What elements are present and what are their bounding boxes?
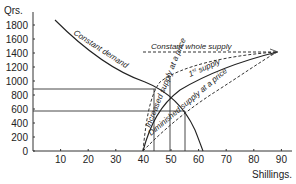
y-tick-label: 0	[22, 146, 28, 157]
y-axis-unit: Qrs.	[4, 5, 23, 16]
y-tick-label: 800	[11, 90, 28, 101]
x-tick-label: 50	[165, 154, 177, 165]
x-tick-label: 10	[55, 154, 67, 165]
x-tick-label: 20	[83, 154, 95, 165]
y-tick-label: 1600	[6, 34, 29, 45]
label-constant-whole-supply: Constant whole supply	[151, 42, 232, 51]
x-axis-unit: Shillings.	[252, 169, 292, 180]
supply-demand-chart: 0 200 400 600 800 1000 1200 1400 1600 18…	[0, 0, 296, 184]
label-constant-demand: Constant demand	[72, 28, 130, 70]
y-tick-labels: 0 200 400 600 800 1000 1200 1400 1600 18…	[6, 20, 29, 157]
x-tick-label: 80	[248, 154, 260, 165]
x-tick-label: 60	[193, 154, 205, 165]
x-tick-label: 40	[138, 154, 150, 165]
y-tick-label: 1200	[6, 62, 29, 73]
y-tick-label: 200	[11, 132, 28, 143]
x-tick-label: 30	[110, 154, 122, 165]
x-tick-label: 90	[276, 154, 288, 165]
y-tick-label: 400	[11, 118, 28, 129]
y-tick-label: 1400	[6, 48, 29, 59]
y-tick-label: 1800	[6, 20, 29, 31]
y-tick-label: 1000	[6, 76, 29, 87]
x-tick-labels: 10 20 30 40 50 60 70 80 90	[55, 154, 287, 165]
y-tick-label: 600	[11, 104, 28, 115]
x-tick-label: 70	[221, 154, 233, 165]
